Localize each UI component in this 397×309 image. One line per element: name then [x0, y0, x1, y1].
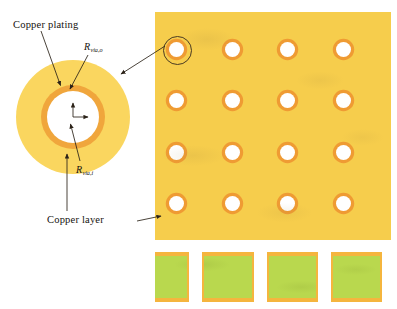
via-r3c2[interactable]	[225, 145, 240, 160]
via-r4c4[interactable]	[336, 196, 351, 211]
via-r3c1[interactable]	[169, 145, 184, 160]
via-cross-section-magnified	[16, 60, 130, 174]
via-r1c3[interactable]	[280, 42, 295, 57]
via-r2c3[interactable]	[280, 93, 295, 108]
r-subscript-outer: via,o	[90, 46, 102, 53]
via-r2c4[interactable]	[336, 93, 351, 108]
pcb-cross-section-strip	[155, 252, 391, 302]
label-r-via-outer: Rvia,o	[84, 41, 102, 52]
r-subscript-inner: via,i	[82, 169, 93, 176]
label-r-via-inner: Rvia,i	[76, 164, 93, 175]
via-r4c3[interactable]	[280, 196, 295, 211]
label-copper-layer: Copper layer	[47, 214, 104, 225]
via-slot-3	[316, 252, 333, 302]
via-r4c1[interactable]	[169, 196, 184, 211]
via-r4c2[interactable]	[225, 196, 240, 211]
via-slot-1	[187, 252, 204, 302]
via-highlight-circle	[163, 36, 192, 65]
diagram-canvas: Copper plating Copper layer Rvia,o Rvia,…	[0, 0, 397, 309]
via-slot-4	[380, 252, 391, 302]
via-slot-2	[252, 252, 269, 302]
via-r2c1[interactable]	[169, 93, 184, 108]
label-copper-plating: Copper plating	[13, 19, 79, 30]
via-r1c2[interactable]	[225, 42, 240, 57]
via-r3c4[interactable]	[336, 145, 351, 160]
via-r3c3[interactable]	[280, 145, 295, 160]
via-r2c2[interactable]	[225, 93, 240, 108]
pcb-panel-via-array	[155, 12, 391, 240]
via-r1c4[interactable]	[336, 42, 351, 57]
via-hole-inner	[47, 91, 99, 143]
